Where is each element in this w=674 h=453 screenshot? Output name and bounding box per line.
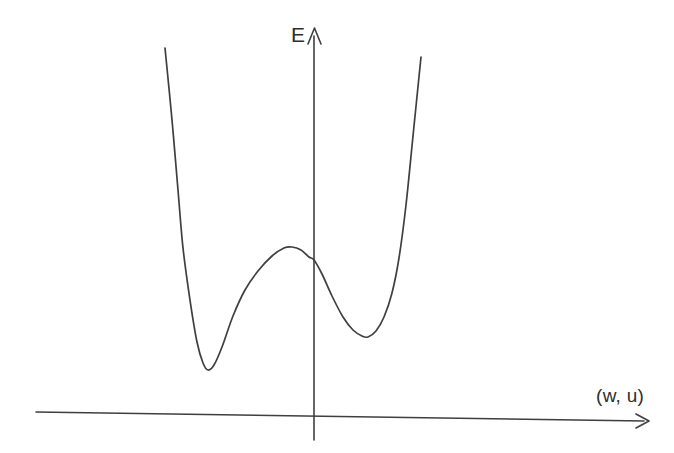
order-parameter-axis-label: (w, u): [596, 386, 644, 405]
figure-canvas: E (w, u): [0, 0, 674, 453]
energy-axis-label: E: [291, 24, 306, 45]
horizontal-axis-line: [36, 412, 644, 421]
double-well-energy-curve: [165, 48, 421, 370]
double-well-sketch: [0, 0, 674, 453]
